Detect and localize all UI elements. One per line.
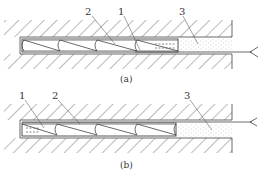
caption-a: (a): [120, 74, 132, 84]
label-1-b: 1: [19, 90, 25, 101]
label-3-b: 3: [184, 90, 190, 101]
panel-a: 2 1 3 (a): [4, 6, 258, 84]
fill-material-3: [176, 124, 232, 137]
rock-hatch-top: [4, 20, 232, 37]
label-1-a: 1: [118, 6, 124, 17]
panel-b: 1 2 3 (b): [4, 90, 257, 170]
label-3-a: 3: [179, 6, 185, 17]
label-2-a: 2: [85, 6, 91, 17]
caption-b: (b): [120, 160, 133, 170]
rock-hatch-bottom: [4, 54, 232, 69]
rock-hatch-top: [4, 104, 232, 120]
fill-material-3: [178, 39, 232, 52]
rock-hatch-bottom: [4, 138, 232, 153]
diagram-canvas: 2 1 3 (a): [0, 0, 270, 180]
label-2-b: 2: [52, 90, 58, 101]
